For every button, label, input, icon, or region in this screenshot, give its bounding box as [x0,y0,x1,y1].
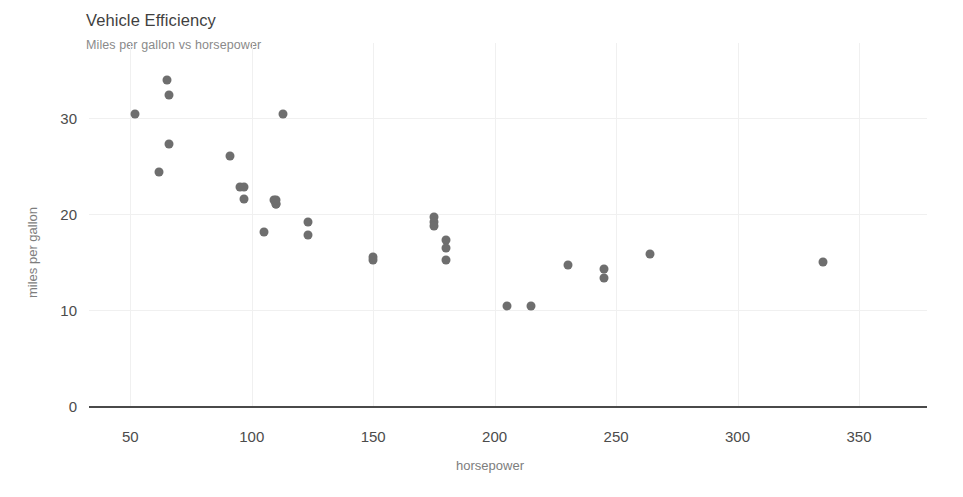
data-point [162,76,171,85]
gridline-vertical [252,43,253,406]
gridline-vertical [130,43,131,406]
data-point [131,109,140,118]
data-point [442,235,451,244]
x-axis-tick-label: 250 [604,428,629,445]
data-point [165,90,174,99]
data-point [240,182,249,191]
data-point [155,167,164,176]
data-point [429,212,438,221]
data-point [240,195,249,204]
data-point [259,228,268,237]
plot-area [0,0,963,497]
data-point [563,260,572,269]
y-axis-tick-label: 10 [20,301,77,318]
scatter-chart: Vehicle Efficiency Miles per gallon vs h… [0,0,963,497]
data-point [818,257,827,266]
gridline-horizontal [89,118,927,119]
data-point [646,250,655,259]
data-point [502,302,511,311]
x-axis-tick-label: 100 [239,428,264,445]
data-point [279,109,288,118]
data-point [429,222,438,231]
gridline-horizontal [89,214,927,215]
gridline-vertical [738,43,739,406]
data-point [225,152,234,161]
data-point [599,274,608,283]
data-point [165,139,174,148]
gridline-vertical [616,43,617,406]
x-axis-tick-label: 150 [361,428,386,445]
data-point [303,217,312,226]
y-axis-tick-label: 0 [20,398,77,415]
y-axis-tick-label: 30 [20,109,77,126]
x-axis-tick-label: 350 [846,428,871,445]
data-point [527,302,536,311]
data-point [369,253,378,262]
y-axis-tick-label: 20 [20,205,77,222]
y-axis-title: miles per gallon [25,142,40,362]
data-point [442,255,451,264]
data-point [272,196,281,205]
x-axis-tick-label: 50 [122,428,139,445]
data-point [442,244,451,253]
x-axis-tick-label: 300 [725,428,750,445]
x-axis-tick-label: 200 [482,428,507,445]
gridline-vertical [859,43,860,406]
gridline-vertical [373,43,374,406]
gridline-vertical [495,43,496,406]
data-point [599,264,608,273]
x-axis-line [89,406,927,408]
data-point [303,231,312,240]
x-axis-title: horsepower [456,458,524,473]
